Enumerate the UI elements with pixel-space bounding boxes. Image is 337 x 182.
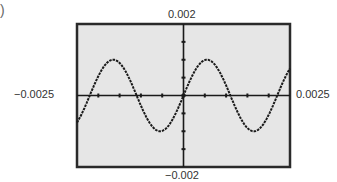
graph-window [0, 0, 337, 182]
